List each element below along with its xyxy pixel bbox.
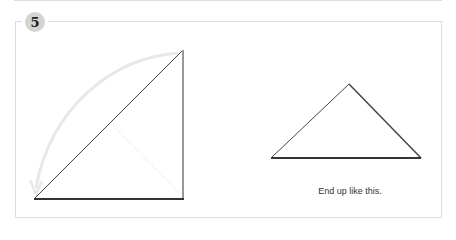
result-triangle bbox=[271, 84, 421, 158]
fold-arrow-icon bbox=[30, 53, 178, 194]
caption: End up like this. bbox=[290, 186, 410, 196]
crease-line bbox=[110, 122, 180, 194]
folded-square bbox=[34, 50, 184, 199]
